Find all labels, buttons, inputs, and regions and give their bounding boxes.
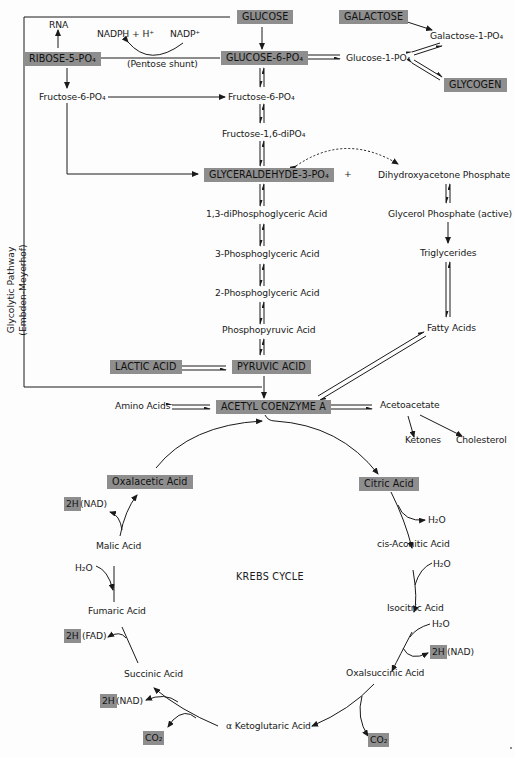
node-succinic-acid: Succinic Acid [124, 668, 183, 680]
node-glyceraldehyde-3-phosphate: GLYCERALDEHYDE-3-PO₄ [204, 168, 334, 182]
nad-oxalacetic: (NAD) [80, 498, 107, 510]
node-malic-acid: Malic Acid [96, 540, 141, 552]
tag-co2-right: CO₂ [368, 733, 389, 747]
node-nadp: NADP⁺ [170, 28, 200, 40]
node-alpha-ketoglutaric-acid: α Ketoglutaric Acid [226, 720, 311, 732]
water-isocitric: H₂O [432, 618, 450, 630]
node-cis-aconitic-acid: cis-Aconitic Acid [377, 538, 450, 550]
side-label-line1: Glycolytic Pathway [5, 240, 17, 340]
nad-succinic: (NAD) [116, 695, 143, 707]
node-fumaric-acid: Fumaric Acid [88, 605, 146, 617]
node-nadph: NADPH + H⁺ [97, 28, 154, 40]
pentose-shunt-label: (Pentose shunt) [127, 58, 198, 70]
node-rna: RNA [49, 19, 68, 31]
node-1-3-diphosphoglyceric-acid: 1,3-diPhosphoglyceric Acid [206, 208, 327, 220]
tag-co2-left: CO₂ [143, 731, 164, 745]
node-acetyl-coenzyme-a: ACETYL COENZYME A [216, 400, 331, 414]
water-citric: H₂O [428, 514, 446, 526]
node-glucose-6-phosphate: GLUCOSE-6-PO₄ [221, 51, 308, 65]
metabolic-pathway-diagram: Glycolytic Pathway (Embden-Meyerhof) GLU… [0, 0, 515, 758]
tag-2h-succinic: 2H [100, 694, 117, 708]
node-galactose-1-phosphate: Galactose-1-PO₄ [430, 30, 503, 42]
krebs-cycle-title: KREBS CYCLE [236, 571, 304, 582]
node-fatty-acids: Fatty Acids [427, 322, 476, 334]
node-3-phosphoglyceric-acid: 3-Phosphoglyceric Acid [215, 248, 319, 260]
node-citric-acid: Citric Acid [359, 477, 419, 491]
node-lactic-acid: LACTIC ACID [110, 360, 182, 374]
node-acetoacetate: Acetoacetate [380, 399, 440, 411]
node-oxalacetic-acid: Oxalacetic Acid [107, 475, 193, 489]
node-isocitric-acid: Isocitric Acid [387, 602, 444, 614]
nad-isocitric: (NAD) [447, 646, 474, 658]
node-ketones: Ketones [405, 434, 441, 446]
node-fructose-1-6-diphosphate: Fructose-1,6-diPO₄ [222, 128, 305, 140]
node-glucose-1-phosphate: Glucose-1-PO₄ [346, 52, 410, 64]
node-galactose: GALACTOSE [339, 10, 408, 24]
node-glycerol-phosphate: Glycerol Phosphate (active) [388, 208, 512, 220]
node-cholesterol: Cholesterol [456, 434, 507, 446]
node-fructose-6-phosphate: Fructose-6-PO₄ [228, 91, 294, 103]
fad-fumaric: (FAD) [82, 630, 106, 642]
node-oxalsuccinic-acid: Oxalsuccinic Acid [346, 667, 424, 679]
node-pyruvic-acid: PYRUVIC ACID [232, 360, 311, 374]
node-phosphopyruvic-acid: Phosphopyruvic Acid [222, 324, 316, 336]
node-glucose: GLUCOSE [237, 10, 293, 24]
node-triglycerides: Triglycerides [420, 247, 476, 259]
tag-2h-isocitric: 2H [430, 645, 447, 659]
plus-sign: + [344, 168, 352, 180]
tag-2h-oxalacetic: 2H [64, 497, 81, 511]
side-label-line2: (Embden-Meyerhof) [17, 240, 29, 340]
node-ribose-5-phosphate: RIBOSE-5-PO₄ [24, 52, 101, 66]
node-2-phosphoglyceric-acid: 2-Phosphoglyceric Acid [215, 287, 319, 299]
node-amino-acids: Amino Acids [115, 400, 170, 412]
glycolytic-pathway-label: Glycolytic Pathway (Embden-Meyerhof) [5, 240, 29, 340]
node-glycogen: GLYCOGEN [444, 78, 507, 92]
water-malic: H₂O [75, 562, 93, 574]
node-dihydroxyacetone-phosphate: Dihydroxyacetone Phosphate [378, 169, 510, 181]
water-aconitic: H₂O [433, 558, 451, 570]
node-fructose-6-phosphate-left: Fructose-6-PO₄ [39, 91, 105, 103]
tag-2h-fumaric: 2H [64, 629, 81, 643]
